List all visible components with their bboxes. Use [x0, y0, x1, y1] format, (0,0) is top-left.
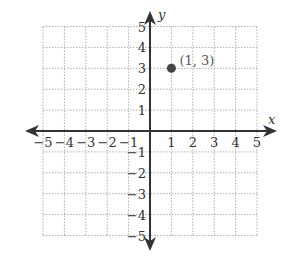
x-tick-label: 1 [167, 135, 175, 150]
x-tick-label: −5 [33, 135, 52, 150]
y-tick-label: 2 [138, 82, 146, 97]
x-axis-label: x [268, 112, 276, 127]
x-tick-label: 5 [253, 135, 261, 150]
y-tick-label: −5 [127, 229, 146, 244]
x-tick-label: −3 [76, 135, 95, 150]
x-tick-label: 2 [189, 135, 197, 150]
y-axis-label: y [157, 7, 166, 22]
x-tick-label: −4 [55, 135, 74, 150]
x-tick-label: 3 [210, 135, 218, 150]
data-point [167, 64, 176, 73]
x-tick-label: 4 [231, 135, 239, 150]
y-tick-label: 5 [138, 20, 146, 35]
y-tick-label: −2 [127, 166, 146, 181]
coordinate-plane: xy−5−4−3−2−11234554321−1−2−3−4−5(1, 3) [0, 0, 294, 258]
y-tick-label: 3 [138, 61, 146, 76]
y-tick-label: 4 [138, 40, 146, 55]
y-tick-label: −4 [127, 208, 146, 223]
x-tick-label: −2 [98, 135, 117, 150]
y-tick-label: 1 [138, 103, 146, 118]
y-tick-label: −1 [127, 145, 146, 160]
point-label: (1, 3) [179, 53, 214, 68]
y-tick-label: −3 [127, 187, 146, 202]
